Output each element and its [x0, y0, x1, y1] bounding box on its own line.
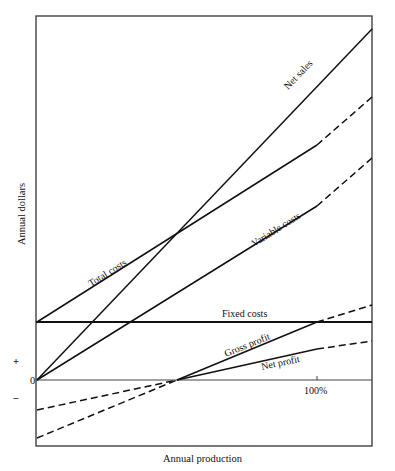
label-variable-costs: Variable costs	[249, 210, 302, 249]
label-net-profit: Net profit	[260, 353, 301, 372]
zero-marker: 0	[30, 375, 35, 386]
break-even-chart: Net sales Total costs Variable costs Fix…	[0, 0, 395, 471]
gross-profit-extension	[317, 305, 372, 322]
net-profit-extension	[317, 341, 372, 349]
y-axis-label: Annual dollars	[16, 183, 27, 245]
gross-profit-loss-segment	[37, 380, 177, 410]
label-net-sales: Net sales	[282, 58, 315, 92]
plot-frame	[36, 16, 372, 446]
minus-marker: −	[13, 393, 19, 404]
net-profit-loss-segment	[37, 380, 177, 438]
label-fixed-costs: Fixed costs	[222, 308, 267, 319]
total-costs-extension	[317, 97, 372, 145]
gross-profit-line	[177, 322, 317, 380]
label-total-costs: Total costs	[86, 257, 128, 289]
net-sales-line	[37, 29, 372, 380]
tick-label-100: 100%	[304, 385, 327, 396]
x-axis-label: Annual production	[163, 453, 243, 464]
plus-marker: +	[13, 356, 19, 367]
variable-costs-extension	[317, 158, 372, 206]
label-gross-profit: Gross profit	[223, 331, 272, 359]
